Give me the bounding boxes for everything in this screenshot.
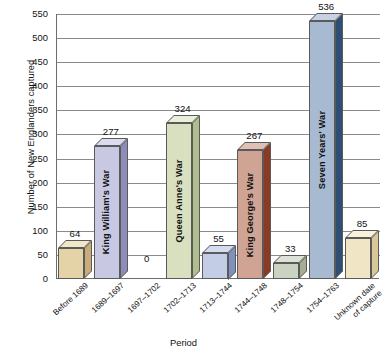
bar-value-label: 277 [94, 126, 128, 137]
x-axis-tick-label: 1744–1748 [233, 281, 270, 316]
y-axis-tick-label: 350 [14, 104, 48, 115]
bar-value-label: 85 [345, 218, 379, 229]
y-axis-tick-label: 150 [14, 201, 48, 212]
bar-body [202, 245, 236, 280]
bar-side-face [120, 138, 128, 279]
bar[interactable]: Seven Years' War536 [309, 14, 343, 279]
bar-front-face [309, 21, 335, 279]
bar-side-face [335, 13, 343, 279]
y-axis-tick-label: 450 [14, 56, 48, 67]
y-axis-tick-label: 400 [14, 80, 48, 91]
bar-front-face [345, 238, 371, 279]
plot-area: 64King William's War2770Queen Anne's War… [56, 14, 379, 279]
y-axis-tick-label: 550 [14, 8, 48, 19]
bar-front-face [166, 123, 192, 279]
bar-front-face [202, 253, 228, 280]
bar[interactable]: King William's War277 [94, 14, 128, 279]
bar-body: Seven Years' War [309, 13, 343, 279]
bar-value-label: 0 [130, 253, 164, 264]
x-axis-title-text: Period [170, 337, 197, 348]
x-axis-title: Period [0, 337, 391, 348]
bar[interactable]: Queen Anne's War324 [166, 14, 200, 279]
x-axis-tick-label: 1748–1754 [269, 281, 306, 316]
bar-body: Queen Anne's War [166, 115, 200, 279]
y-axis-tick-label: 500 [14, 32, 48, 43]
bar[interactable]: 33 [273, 14, 307, 279]
bar-body [58, 240, 92, 279]
bar-front-face [237, 150, 263, 279]
bar-body: King William's War [94, 138, 128, 279]
y-axis-tick-label: 300 [14, 128, 48, 139]
x-axis-tick-label: 1697–1702 [126, 281, 163, 316]
bar-side-face [371, 230, 379, 279]
y-axis-tick-label: 100 [14, 225, 48, 236]
x-axis-tick-label: 1702–1713 [162, 281, 199, 316]
bar-value-label: 33 [273, 243, 307, 254]
y-axis-tick-label: 0 [14, 273, 48, 284]
bar[interactable]: King George's War267 [237, 14, 271, 279]
bar-body [273, 255, 307, 279]
bar-value-label: 324 [166, 103, 200, 114]
bar-front-face [273, 263, 299, 279]
bar-body [345, 230, 379, 279]
bar-value-label: 64 [58, 228, 92, 239]
y-axis-tick-label: 200 [14, 177, 48, 188]
y-axis-tick-label: 250 [14, 153, 48, 164]
bar-side-face [192, 115, 200, 279]
y-axis-tick-label: 50 [14, 249, 48, 260]
bar[interactable]: 85 [345, 14, 379, 279]
bar-value-label: 55 [202, 233, 236, 244]
x-axis-ticks: Before 16891689–16971697–17021702–171317… [56, 281, 379, 339]
bar[interactable]: 0 [130, 14, 164, 279]
bar-front-face [94, 146, 120, 279]
bar-chart: Number of New Englanders captured 64King… [0, 0, 391, 357]
x-axis-tick-label: 1713–1744 [197, 281, 234, 316]
bar-value-label: 536 [309, 1, 343, 12]
bar-side-face [263, 142, 271, 279]
bar-body: King George's War [237, 142, 271, 279]
bar-value-label: 267 [237, 130, 271, 141]
x-axis-tick-label: 1689–1697 [90, 281, 127, 316]
bars-layer: 64King William's War2770Queen Anne's War… [57, 14, 380, 279]
bar[interactable]: 55 [202, 14, 236, 279]
bar[interactable]: 64 [58, 14, 92, 279]
bar-front-face [58, 248, 84, 279]
x-axis-tick-label: Before 1689 [51, 281, 90, 318]
